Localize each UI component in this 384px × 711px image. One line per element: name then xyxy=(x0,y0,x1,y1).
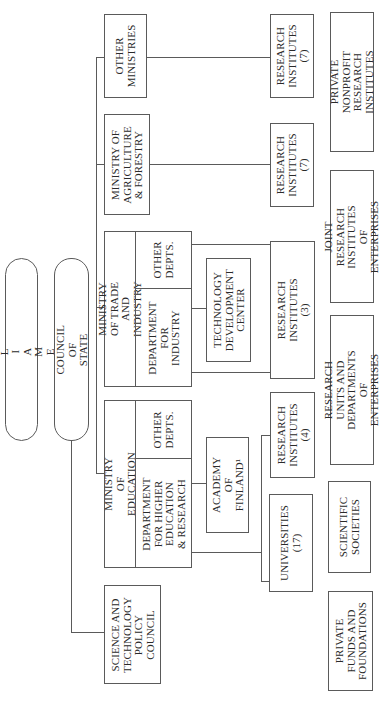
ministry-education-label: MINISTRY OF EDUCATION xyxy=(103,452,138,516)
council-to-science-line xyxy=(71,632,104,633)
spine-to-other-ministries-line xyxy=(96,57,104,58)
agriculture-to-institutes-line xyxy=(149,164,270,165)
other-ministries-to-institutes-line xyxy=(146,57,270,58)
research-institutes-other-node: RESEARCH INSTITUTES (7) xyxy=(270,14,314,98)
council-trunk-line xyxy=(71,440,72,633)
research-institutes-trade-label: RESEARCH INSTITUTES (3) xyxy=(275,278,310,341)
dept-industry-label: DEPARTMENT FOR INDUSTRY xyxy=(147,301,182,374)
other-ministries-node: OTHER MINISTRIES xyxy=(104,14,147,98)
education-other-depts-label: OTHER DEPTS. xyxy=(152,411,175,448)
ministry-trade-node: MINISTRY OF TRADE AND INDUSTRY OTHER DEP… xyxy=(104,231,192,387)
science-council-label: SCIENCE AND TECHNOLOGY POLICY COUNCIL xyxy=(109,596,155,672)
parliament-node: P A R L I A M E N T xyxy=(5,258,38,441)
dept-higher-ed-lower-line xyxy=(191,552,261,553)
trade-other-depts-line xyxy=(191,244,271,245)
dept-industry-to-tdc-line xyxy=(191,308,206,309)
bracket-to-research-4-line xyxy=(261,435,270,436)
research-institutes-agriculture-label: RESEARCH INSTITUTES (7) xyxy=(275,133,310,196)
dept-industry-lower-line xyxy=(191,372,271,373)
ministry-education-node: MINISTRY OF EDUCATION OTHER DEPTS. DEPAR… xyxy=(104,400,192,568)
ministries-spine-line xyxy=(96,57,97,474)
education-bracket-line xyxy=(261,435,262,582)
scientific-societies-label: SCIENTIFIC SOCIETIES xyxy=(338,497,361,557)
research-institutes-trade-node: RESEARCH INSTITUTES (3) xyxy=(270,241,315,379)
bracket-to-universities-line xyxy=(261,581,269,582)
private-funds-node: PRIVATE FUNDS AND FOUNDATIONS xyxy=(328,591,373,691)
dept-higher-ed-to-academy-line xyxy=(191,483,206,484)
council-of-state-label: COUNCIL OF STATE xyxy=(54,325,89,374)
other-ministries-label: OTHER MINISTRIES xyxy=(114,25,137,88)
spine-to-agriculture-line xyxy=(96,164,104,165)
academy-of-finland-node: ACADEMY OF FINLAND¹ xyxy=(206,437,249,533)
private-funds-label: PRIVATE FUNDS AND FOUNDATIONS xyxy=(333,602,368,680)
research-institutes-agriculture-node: RESEARCH INSTITUTES (7) xyxy=(270,123,314,207)
research-institutes-other-label: RESEARCH INSTITUTES (7) xyxy=(275,24,310,87)
technology-development-center-label: TECHNOLOGY DEVELOPMENT CENTER xyxy=(211,269,246,351)
trade-other-depts-label: OTHER DEPTS. xyxy=(152,241,175,278)
council-of-state-node: COUNCIL OF STATE xyxy=(54,258,89,441)
technology-development-center-node: TECHNOLOGY DEVELOPMENT CENTER xyxy=(206,258,251,362)
private-nonprofit-node: PRIVATE NONPROFIT RESEARCH INSTITUTES xyxy=(330,12,374,152)
research-units-enterprises-node: RESEARCH UNITS AND DEPARTMENTS OF ENTERP… xyxy=(330,315,374,465)
science-council-node: SCIENCE AND TECHNOLOGY POLICY COUNCIL xyxy=(104,585,161,684)
research-units-enterprises-label: RESEARCH UNITS AND DEPARTMENTS OF ENTERP… xyxy=(323,350,381,430)
universities-label: UNIVERSITIES (17) xyxy=(279,505,302,581)
private-nonprofit-label: PRIVATE NONPROFIT RESEARCH INSTITUTES xyxy=(329,50,375,113)
scientific-societies-node: SCIENTIFIC SOCIETIES xyxy=(328,481,371,573)
research-institutes-education-node: RESEARCH INSTITUTES (4) xyxy=(270,392,315,478)
joint-research-institutes-label: JOINT RESEARCH INSTITUTES OF ENTERPRISES xyxy=(323,200,381,273)
research-institutes-education-label: RESEARCH INSTITUTES (4) xyxy=(275,403,310,466)
joint-research-institutes-node: JOINT RESEARCH INSTITUTES OF ENTERPRISES xyxy=(330,170,374,303)
dept-higher-education-label: DEPARTMENT FOR HIGHER EDUCATION & RESEAR… xyxy=(141,477,187,550)
universities-node: UNIVERSITIES (17) xyxy=(269,494,313,592)
ministry-agriculture-label: MINISTRY OF AGRICULTURE & FORESTRY xyxy=(110,126,145,204)
ministry-agriculture-node: MINISTRY OF AGRICULTURE & FORESTRY xyxy=(104,114,150,215)
academy-of-finland-label: ACADEMY OF FINLAND¹ xyxy=(210,457,245,513)
